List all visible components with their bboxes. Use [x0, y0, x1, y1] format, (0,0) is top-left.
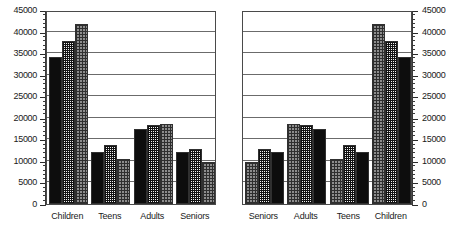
- bar: [343, 145, 356, 204]
- bar: [189, 149, 202, 204]
- y-axis-right: 0500010000150002000025000300003500040000…: [412, 11, 456, 205]
- bar: [258, 149, 271, 204]
- y-tick-label: 0: [422, 200, 427, 209]
- bar: [300, 125, 313, 204]
- bar-group-bars: [371, 12, 413, 204]
- y-tick-label: 5000: [18, 178, 37, 187]
- bar: [49, 57, 62, 204]
- y-tick-label: 10000: [422, 157, 446, 166]
- bar: [202, 162, 215, 204]
- y-tick-label: 45000: [13, 6, 37, 15]
- bar: [117, 159, 130, 204]
- bar-group-bars: [90, 12, 133, 204]
- y-axis-spine-right: [412, 11, 413, 206]
- y-tick-label: 5000: [422, 178, 441, 187]
- chart-panel-right: 0500010000150002000025000300003500040000…: [228, 0, 456, 238]
- bar-group-bars: [328, 12, 371, 204]
- y-tick-label: 40000: [422, 28, 446, 37]
- y-tick-label: 20000: [13, 114, 37, 123]
- bar: [313, 129, 326, 204]
- x-tick-label: Children: [51, 211, 83, 221]
- bar: [147, 125, 160, 204]
- y-tick-label: 25000: [13, 92, 37, 101]
- x-tick-label: Seniors: [180, 211, 209, 221]
- bar: [176, 152, 189, 204]
- bar: [398, 57, 411, 204]
- y-tick-label: 15000: [13, 135, 37, 144]
- bar: [160, 124, 173, 204]
- y-tick-label: 20000: [422, 114, 446, 123]
- bar-group: [243, 12, 286, 204]
- x-axis-left: ChildrenTeensAdultsSeniors: [46, 206, 216, 228]
- x-tick-label: Teens: [337, 211, 360, 221]
- x-tick-label: Teens: [98, 211, 121, 221]
- y-tick-label: 45000: [422, 6, 446, 15]
- bar: [245, 162, 258, 204]
- bar: [75, 24, 88, 204]
- y-tick-label: 30000: [422, 71, 446, 80]
- x-tick-label: Adults: [140, 211, 164, 221]
- bar: [330, 159, 343, 204]
- bar-group: [371, 12, 413, 204]
- bar-group: [47, 12, 90, 204]
- y-tick-label: 40000: [13, 28, 37, 37]
- bar-group: [175, 12, 217, 204]
- bar: [91, 152, 104, 204]
- y-tick-label: 35000: [422, 49, 446, 58]
- bar: [62, 41, 75, 204]
- y-tick-label: 25000: [422, 92, 446, 101]
- bar: [372, 24, 385, 204]
- y-tick-label: 30000: [13, 71, 37, 80]
- bar: [356, 152, 369, 204]
- x-axis-right: SeniorsAdultsTeensChildren: [242, 206, 412, 228]
- bar: [385, 41, 398, 204]
- plot-area-right: [242, 11, 412, 205]
- dual-bar-chart-figure: 0500010000150002000025000300003500040000…: [0, 0, 456, 238]
- y-tick-label: 0: [32, 200, 37, 209]
- bar-group: [132, 12, 175, 204]
- bar: [104, 145, 117, 204]
- bar-group-bars: [286, 12, 329, 204]
- bar-group: [286, 12, 329, 204]
- bar-group-bars: [47, 12, 90, 204]
- bar-group: [90, 12, 133, 204]
- plot-area-left: [46, 11, 216, 205]
- bar-group-bars: [243, 12, 286, 204]
- y-tick-label: 15000: [422, 135, 446, 144]
- bar-group-bars: [132, 12, 175, 204]
- bar: [271, 152, 284, 204]
- x-tick-label: Children: [375, 211, 407, 221]
- y-tick-label: 35000: [13, 49, 37, 58]
- y-tick-label: 10000: [13, 157, 37, 166]
- x-tick-label: Adults: [294, 211, 318, 221]
- y-axis-left: 0500010000150002000025000300003500040000…: [0, 11, 46, 205]
- bar: [287, 124, 300, 204]
- bar: [134, 129, 147, 204]
- bar-group: [328, 12, 371, 204]
- chart-panel-left: 0500010000150002000025000300003500040000…: [0, 0, 228, 238]
- x-tick-label: Seniors: [249, 211, 278, 221]
- bar-group-bars: [175, 12, 217, 204]
